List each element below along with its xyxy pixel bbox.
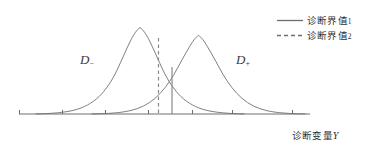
legend-entry-1-text: 诊断界值 — [307, 15, 348, 26]
label-d-positive: D+ — [236, 53, 250, 68]
curve-d-positive — [92, 35, 305, 114]
legend-entry-2-text: 诊断界值 — [307, 30, 348, 41]
x-axis-title-variable: Y — [333, 130, 339, 141]
diagnostic-cutoff-figure: 诊断界值1 诊断界值2 D− D+ 诊断变量Y — [0, 0, 365, 154]
x-axis-title: 诊断变量Y — [292, 131, 339, 141]
legend-entry-1-index: 1 — [348, 17, 352, 26]
d-negative-subscript: − — [89, 59, 94, 68]
legend-entry-2-label: 诊断界值2 — [307, 31, 352, 41]
x-axis-title-text: 诊断变量 — [292, 130, 333, 141]
legend-entry-2-index: 2 — [348, 32, 352, 41]
d-negative-symbol: D — [80, 52, 89, 67]
legend-entry-1-label: 诊断界值1 — [307, 16, 352, 26]
curve-d-negative — [36, 28, 244, 114]
d-positive-subscript: + — [245, 59, 250, 68]
label-d-negative: D− — [80, 53, 94, 68]
d-positive-symbol: D — [236, 52, 245, 67]
